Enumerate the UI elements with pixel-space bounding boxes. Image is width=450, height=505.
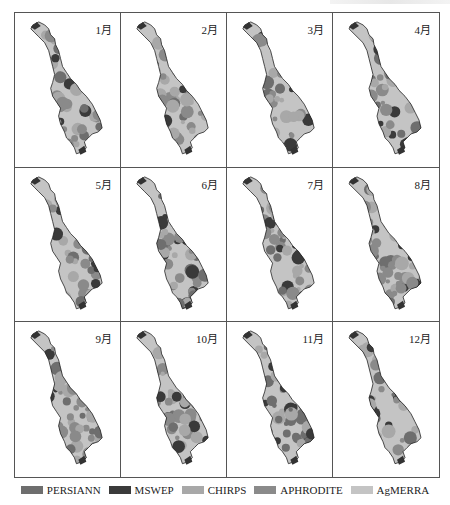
month-label: 1月: [96, 21, 113, 37]
legend-label: APHRODITE: [280, 484, 342, 496]
map-panel: 9月: [15, 322, 121, 477]
legend-swatch: [21, 486, 43, 494]
legend-swatch: [109, 486, 131, 494]
month-label: 10月: [196, 330, 218, 346]
month-label: 5月: [96, 176, 113, 192]
month-label: 8月: [415, 176, 432, 192]
legend-item: MSWEP: [109, 484, 174, 496]
month-label: 11月: [302, 330, 324, 346]
month-label: 9月: [96, 330, 113, 346]
map-panel: 6月: [121, 168, 227, 323]
month-label: 12月: [409, 330, 431, 346]
map-panel: 4月: [333, 13, 439, 168]
map-panel: 12月: [333, 322, 439, 477]
map-panel: 2月: [121, 13, 227, 168]
legend-label: CHIRPS: [208, 484, 247, 496]
legend-item: CHIRPS: [182, 484, 247, 496]
legend-swatch: [351, 486, 373, 494]
legend-label: AgMERRA: [377, 484, 430, 496]
month-label: 4月: [415, 21, 432, 37]
map-panel: 3月: [227, 13, 333, 168]
month-label: 7月: [308, 176, 325, 192]
legend: PERSIANNMSWEPCHIRPSAPHRODITEAgMERRA: [0, 484, 450, 496]
map-panel: 11月: [227, 322, 333, 477]
legend-swatch: [182, 486, 204, 494]
legend-label: MSWEP: [135, 484, 174, 496]
month-label: 3月: [308, 21, 325, 37]
legend-item: PERSIANN: [21, 484, 101, 496]
monthly-map-grid: 1月 2月 3月 4月: [14, 12, 440, 478]
map-panel: 7月: [227, 168, 333, 323]
map-panel: 1月: [15, 13, 121, 168]
map-panel: 10月: [121, 322, 227, 477]
legend-item: APHRODITE: [254, 484, 342, 496]
legend-item: AgMERRA: [351, 484, 430, 496]
legend-swatch: [254, 486, 276, 494]
map-panel: 5月: [15, 168, 121, 323]
month-label: 6月: [202, 176, 219, 192]
legend-label: PERSIANN: [47, 484, 101, 496]
faint-header-text: [330, 0, 450, 4]
month-label: 2月: [202, 21, 219, 37]
map-panel: 8月: [333, 168, 439, 323]
